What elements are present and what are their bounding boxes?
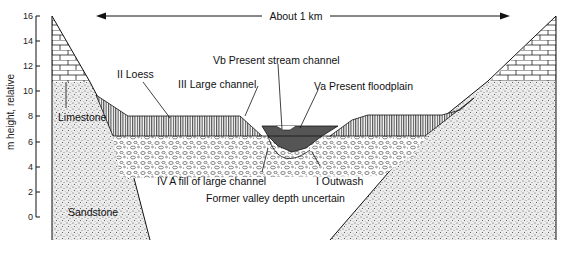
tick-6: 6 — [28, 137, 33, 147]
loess-left — [96, 95, 262, 136]
tick-10: 10 — [23, 86, 33, 96]
tick-16: 16 — [23, 11, 33, 21]
label-fill-large-channel: IV A fill of large channel — [157, 175, 266, 187]
label-limestone: Limestone — [58, 111, 107, 123]
label-present-floodplain: Va Present floodplain — [314, 80, 413, 92]
label-loess: II Loess — [117, 68, 154, 80]
scale-label: About 1 km — [269, 10, 322, 22]
valley-cross-section-diagram: 0 2 4 6 8 10 12 14 16 m height, relative… — [0, 0, 572, 258]
label-large-channel: III Large channel — [178, 78, 256, 90]
tick-0: 0 — [28, 212, 33, 222]
y-axis: 0 2 4 6 8 10 12 14 16 m height, relative — [5, 11, 40, 222]
arrow-right-icon — [500, 13, 510, 20]
label-outwash: I Outwash — [316, 175, 363, 187]
tick-2: 2 — [28, 187, 33, 197]
arrow-left-icon — [96, 13, 106, 20]
label-present-stream-channel: Vb Present stream channel — [213, 54, 340, 66]
scale-bar: About 1 km — [96, 10, 510, 22]
y-axis-label: m height, relative — [5, 73, 16, 150]
tick-12: 12 — [23, 61, 33, 71]
tick-4: 4 — [28, 162, 33, 172]
tick-14: 14 — [23, 36, 33, 46]
tick-8: 8 — [28, 111, 33, 121]
label-valley-depth-note: Former valley depth uncertain — [206, 192, 345, 204]
label-sandstone: Sandstone — [68, 206, 118, 218]
